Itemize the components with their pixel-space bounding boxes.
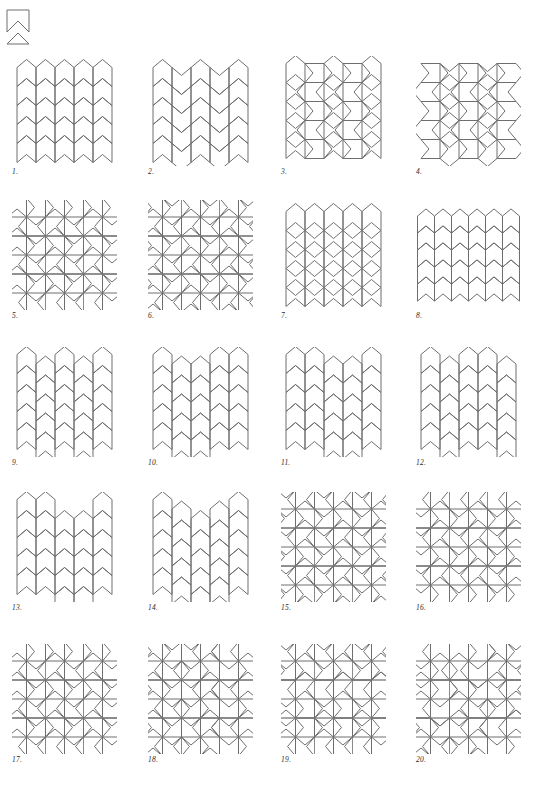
figure-caption-18: 18. [148, 756, 158, 764]
tiling-diagram-20 [416, 644, 521, 754]
tiling-figure-6: 6. [148, 200, 253, 310]
figure-caption-11: 11. [281, 459, 290, 467]
tiling-figure-2: 2. [148, 56, 253, 166]
figure-caption-1: 1. [12, 168, 18, 176]
tiling-figure-14: 14. [148, 492, 253, 602]
tiling-figure-18: 18. [148, 644, 253, 754]
figure-caption-2: 2. [148, 168, 154, 176]
plate-page: 1.2.3.4.5.6.7.8.9.10.11.12.13.14.15.16.1… [0, 0, 533, 796]
tiling-diagram-5 [12, 200, 117, 310]
tiling-diagram-18 [148, 644, 253, 754]
figure-caption-14: 14. [148, 604, 158, 612]
tiling-figure-5: 5. [12, 200, 117, 310]
tiling-figure-3: 3. [281, 56, 386, 166]
tiling-figure-11: 11. [281, 347, 386, 457]
figure-caption-8: 8. [416, 312, 422, 320]
figure-caption-9: 9. [12, 459, 18, 467]
figure-caption-5: 5. [12, 312, 18, 320]
figure-caption-3: 3. [281, 168, 287, 176]
tiling-figure-7: 7. [281, 200, 386, 310]
tiling-diagram-2 [148, 56, 253, 166]
tiling-diagram-8 [416, 200, 521, 310]
tiling-diagram-9 [12, 347, 117, 457]
figure-caption-16: 16. [416, 604, 426, 612]
tiling-figure-4: 4. [416, 56, 521, 166]
figure-caption-6: 6. [148, 312, 154, 320]
tiling-diagram-4 [416, 56, 521, 166]
tiling-diagram-17 [12, 644, 117, 754]
figure-caption-20: 20. [416, 756, 426, 764]
tiling-diagram-3 [281, 56, 386, 166]
tiling-diagram-13 [12, 492, 117, 602]
prototile-legend [4, 6, 38, 46]
tiling-figure-1: 1. [12, 56, 117, 166]
tiling-figure-12: 12. [416, 347, 521, 457]
tiling-diagram-14 [148, 492, 253, 602]
figure-caption-15: 15. [281, 604, 291, 612]
tiling-diagram-11 [281, 347, 386, 457]
figure-caption-7: 7. [281, 312, 287, 320]
tiling-figure-19: 19. [281, 644, 386, 754]
figure-grid: 1.2.3.4.5.6.7.8.9.10.11.12.13.14.15.16.1… [0, 52, 533, 796]
tiling-diagram-1 [12, 56, 117, 166]
tiling-diagram-10 [148, 347, 253, 457]
figure-caption-4: 4. [416, 168, 422, 176]
tiling-figure-10: 10. [148, 347, 253, 457]
tiling-figure-15: 15. [281, 492, 386, 602]
tiling-figure-8: 8. [416, 200, 521, 310]
tiling-figure-17: 17. [12, 644, 117, 754]
figure-caption-10: 10. [148, 459, 158, 467]
figure-caption-12: 12. [416, 459, 426, 467]
tiling-figure-9: 9. [12, 347, 117, 457]
tiling-figure-16: 16. [416, 492, 521, 602]
tiling-diagram-19 [281, 644, 386, 754]
figure-caption-17: 17. [12, 756, 22, 764]
tiling-figure-20: 20. [416, 644, 521, 754]
tiling-figure-13: 13. [12, 492, 117, 602]
figure-caption-19: 19. [281, 756, 291, 764]
tiling-diagram-15 [281, 492, 386, 602]
tiling-diagram-6 [148, 200, 253, 310]
tiling-diagram-12 [416, 347, 521, 457]
figure-caption-13: 13. [12, 604, 22, 612]
prototile-icon [4, 6, 38, 46]
tiling-diagram-16 [416, 492, 521, 602]
tiling-diagram-7 [281, 200, 386, 310]
